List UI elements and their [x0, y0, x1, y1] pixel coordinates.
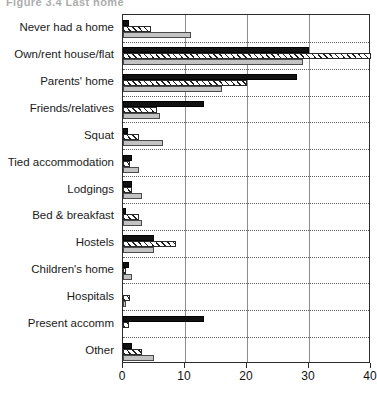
- y-axis-label: Bed & breakfast: [32, 209, 114, 221]
- y-axis-label: Present accomm: [28, 317, 114, 329]
- x-axis-tick-label: 20: [239, 369, 252, 383]
- y-axis-label: Children's home: [31, 263, 114, 275]
- x-axis-tick: [308, 363, 309, 368]
- figure-title: Figure 3.4 Last home: [6, 0, 124, 8]
- bar-group: [123, 122, 369, 149]
- bar-group: [123, 203, 369, 230]
- bar: [123, 32, 191, 38]
- bar: [123, 220, 142, 226]
- bar-group: [123, 176, 369, 203]
- bar-group: [123, 96, 369, 123]
- bar-group: [123, 230, 369, 257]
- y-axis-label: Hostels: [76, 236, 114, 248]
- bar: [123, 355, 154, 361]
- bar: [123, 86, 222, 92]
- bar-group: [123, 337, 369, 364]
- bar: [123, 167, 139, 173]
- y-axis-label: Never had a home: [19, 21, 114, 33]
- x-axis-tick-labels: 010203040: [122, 369, 370, 387]
- bar: [123, 140, 163, 146]
- bar: [123, 274, 132, 280]
- bar-group: [123, 257, 369, 284]
- x-axis-tick-label: 0: [119, 369, 126, 383]
- y-axis-label: Squat: [84, 129, 114, 141]
- bar: [123, 113, 160, 119]
- y-axis-label: Tied accommodation: [8, 156, 114, 168]
- y-axis-label: Own/rent house/flat: [14, 48, 114, 60]
- x-axis-tick-label: 40: [363, 369, 376, 383]
- bar: [123, 316, 204, 322]
- x-axis-ticks: [122, 363, 370, 368]
- x-axis-tick: [184, 363, 185, 368]
- y-axis-label: Parents' home: [40, 75, 114, 87]
- x-axis-tick-label: 30: [301, 369, 314, 383]
- bar-group: [123, 283, 369, 310]
- bar: [123, 247, 154, 253]
- x-axis-tick-label: 10: [177, 369, 190, 383]
- bar: [123, 59, 303, 65]
- y-axis-label: Hospitals: [67, 290, 114, 302]
- bar-group: [123, 310, 369, 337]
- bar-group: [123, 15, 369, 42]
- bar-group: [123, 42, 369, 69]
- y-axis-labels: Never had a homeOwn/rent house/flatParen…: [0, 14, 118, 363]
- y-axis-label: Friends/relatives: [30, 102, 114, 114]
- y-axis-label: Lodgings: [67, 183, 114, 195]
- x-axis-tick: [370, 363, 371, 368]
- bar-group: [123, 149, 369, 176]
- bar: [123, 193, 142, 199]
- y-axis-label: Other: [85, 344, 114, 356]
- bar: [123, 301, 126, 307]
- bar: [123, 322, 129, 328]
- bar-group: [123, 69, 369, 96]
- chart-plot-area: [122, 14, 370, 363]
- x-axis-tick: [246, 363, 247, 368]
- x-axis-tick: [122, 363, 123, 368]
- bar-rows: [123, 15, 369, 362]
